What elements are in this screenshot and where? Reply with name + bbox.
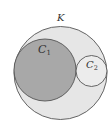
- circle-c1: C1: [14, 39, 76, 101]
- circle-diagram: K C1 C2: [0, 0, 112, 129]
- circle-c2: C2: [76, 56, 107, 87]
- circle-c1-label-subscript: 1: [46, 49, 50, 57]
- circle-k-label: K: [56, 12, 65, 23]
- circle-c2-label-subscript: 2: [94, 64, 98, 72]
